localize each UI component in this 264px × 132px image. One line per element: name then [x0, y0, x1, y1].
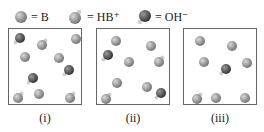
base-molecule-icon [193, 34, 207, 48]
hb-plus-ion-icon [99, 92, 113, 106]
base-molecule-icon [140, 80, 154, 94]
hydroxide-ion-icon [101, 48, 115, 62]
legend: = B = HB⁺ = OH⁻ [0, 6, 264, 28]
hb-plus-ion-icon [63, 91, 77, 105]
base-molecule-icon [197, 55, 211, 69]
base-molecule-icon [69, 32, 83, 46]
legend-item-oh: = OH⁻ [136, 6, 188, 28]
hb-plus-ion-icon [11, 91, 25, 105]
gray-sphere-with-hydrogen-icon [68, 9, 84, 25]
hb-plus-ion-icon [35, 38, 49, 52]
base-molecule-icon [209, 91, 223, 105]
base-molecule-icon [122, 55, 136, 69]
legend-item-hb: = HB⁺ [68, 6, 120, 28]
base-molecule-icon [18, 50, 32, 64]
base-molecule-icon [240, 56, 254, 70]
legend-label-oh: = OH⁻ [155, 10, 188, 25]
hydroxide-ion-icon [154, 86, 168, 100]
panel-ii-label: (ii) [96, 111, 170, 126]
hydroxide-ion-icon [219, 62, 233, 76]
dark-sphere-with-hydrogen-icon [136, 9, 152, 25]
base-molecule-icon [225, 39, 239, 53]
panel-i-box [8, 28, 82, 105]
hydroxide-ion-icon [62, 63, 76, 77]
legend-item-b: = B [14, 6, 49, 28]
legend-label-hb: = HB⁺ [87, 10, 120, 25]
base-molecule-icon [144, 39, 158, 53]
base-molecule-icon [238, 91, 252, 105]
hb-plus-ion-icon [152, 55, 166, 69]
base-molecule-icon [109, 34, 123, 48]
base-molecule-icon [32, 87, 46, 101]
panel-iii-box [183, 28, 257, 105]
hydroxide-ion-icon [26, 71, 40, 85]
legend-label-b: = B [31, 10, 49, 25]
hb-plus-ion-icon [190, 92, 204, 106]
base-molecule-icon [110, 76, 124, 90]
panel-i-label: (i) [8, 111, 82, 126]
hydroxide-ion-icon [13, 31, 27, 45]
panel-ii-box [96, 28, 170, 105]
panel-iii-label: (iii) [183, 111, 257, 126]
gray-sphere-icon [14, 10, 28, 24]
